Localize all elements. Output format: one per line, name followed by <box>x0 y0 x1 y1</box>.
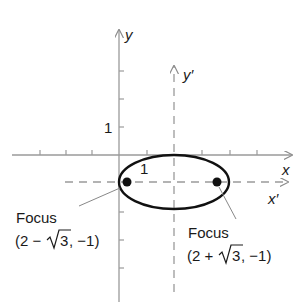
y-axis-ticks <box>119 71 124 268</box>
ellipse-diagram: x y 1 x′ y′ 1 Focus (2 − 3 <box>0 0 307 308</box>
y-axis-label: y <box>124 26 134 43</box>
right-focus-coords-prefix: (2 + <box>187 247 214 264</box>
left-focus-coords-root: 3 <box>60 232 68 249</box>
right-focus-title: Focus <box>188 224 229 241</box>
x-axis: x <box>12 150 292 178</box>
right-focus-coords-suffix: , −1) <box>241 247 271 264</box>
right-focus-coords-root: 3 <box>232 247 240 264</box>
y-axis: y 1 <box>104 26 134 302</box>
x-prime-label: x′ <box>267 190 280 207</box>
x-axis-ticks <box>40 150 257 155</box>
y-unit-label: 1 <box>104 119 112 136</box>
x-axis-label: x <box>281 161 290 178</box>
y-prime-label: y′ <box>182 66 195 83</box>
left-focus-coords-prefix: (2 − <box>15 232 42 249</box>
right-focus-point <box>213 178 222 187</box>
left-focus-title: Focus <box>16 209 57 226</box>
inner-unit-label: 1 <box>140 160 148 177</box>
right-focus-label: Focus (2 + 3 , −1) <box>187 224 271 264</box>
left-focus-point <box>123 178 132 187</box>
left-focus-label: Focus (2 − 3 , −1) <box>15 209 99 249</box>
right-focus-leader <box>219 187 236 219</box>
x-prime-axis: x′ <box>65 182 288 207</box>
left-focus-leader <box>79 188 120 206</box>
left-focus-coords-suffix: , −1) <box>69 232 99 249</box>
